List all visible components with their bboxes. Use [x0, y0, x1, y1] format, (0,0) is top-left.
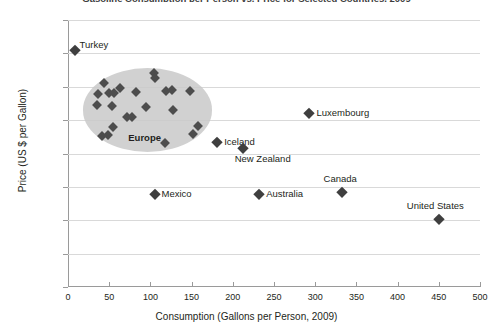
x-axis-tick-label: 500 — [460, 292, 493, 302]
data-point-united-states[interactable] — [433, 213, 444, 224]
plot-area: 050100150200250300350400450500EuropeTurk… — [68, 20, 480, 287]
data-point-iceland[interactable] — [212, 137, 223, 148]
x-axis-tick — [480, 282, 481, 287]
gridline — [68, 254, 480, 255]
data-label-luxembourg: Luxembourg — [316, 107, 369, 118]
x-axis-tick-label: 400 — [378, 292, 418, 302]
chart-title: Gasoline Consumption per Person vs. Pric… — [0, 0, 493, 2]
data-label-australia: Australia — [266, 188, 303, 199]
gridline — [68, 220, 480, 221]
y-axis-title: Price (US $ per Gallon) — [17, 31, 28, 251]
data-point-canada[interactable] — [336, 187, 347, 198]
x-axis-tick-label: 100 — [130, 292, 170, 302]
y-axis-tick — [63, 87, 68, 88]
x-axis-tick-label: 0 — [48, 292, 88, 302]
europe-cluster-label: Europe — [128, 132, 161, 143]
y-axis-tick — [63, 287, 68, 288]
y-axis-tick — [63, 220, 68, 221]
x-axis-tick-label: 50 — [89, 292, 129, 302]
data-point-mexico[interactable] — [149, 188, 160, 199]
x-axis-tick-label: 250 — [254, 292, 294, 302]
x-axis-tick-label: 200 — [213, 292, 253, 302]
gridline — [68, 53, 480, 54]
y-axis-tick — [63, 154, 68, 155]
x-axis-tick-label: 450 — [419, 292, 459, 302]
data-label-canada: Canada — [324, 173, 357, 184]
x-axis-tick — [315, 282, 316, 287]
scatter-chart: Gasoline Consumption per Person vs. Pric… — [0, 0, 493, 334]
data-label-turkey: Turkey — [80, 39, 109, 50]
y-axis-tick — [63, 187, 68, 188]
data-label-mexico: Mexico — [162, 188, 192, 199]
x-axis-tick — [109, 282, 110, 287]
x-axis-tick — [192, 282, 193, 287]
x-axis-title: Consumption (Gallons per Person, 2009) — [0, 311, 493, 322]
data-point-australia[interactable] — [254, 188, 265, 199]
x-axis-tick — [356, 282, 357, 287]
data-label-united-states: United States — [407, 200, 464, 211]
data-point-luxembourg[interactable] — [304, 108, 315, 119]
y-axis-tick — [63, 120, 68, 121]
gridline — [68, 20, 480, 21]
y-axis-tick — [63, 20, 68, 21]
x-axis-tick-label: 300 — [295, 292, 335, 302]
data-label-new-zealand: New Zealand — [235, 153, 291, 164]
y-axis-tick — [63, 254, 68, 255]
x-axis-tick — [68, 282, 69, 287]
x-axis-tick-label: 350 — [336, 292, 376, 302]
x-axis-tick — [439, 282, 440, 287]
y-axis-tick — [63, 53, 68, 54]
x-axis-tick — [398, 282, 399, 287]
x-axis-tick — [274, 282, 275, 287]
x-axis-tick-label: 150 — [172, 292, 212, 302]
x-axis-tick — [150, 282, 151, 287]
x-axis-tick — [233, 282, 234, 287]
